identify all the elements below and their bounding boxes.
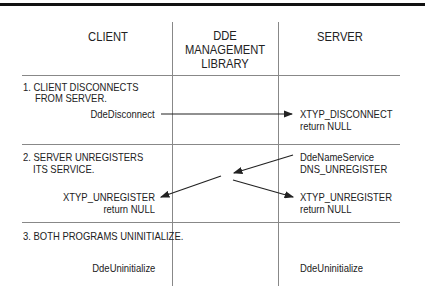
flow-arrows [0, 0, 425, 299]
arrow-nameservice-to-ddeml [234, 155, 293, 173]
arrow-ddeml-to-server [233, 180, 293, 197]
arrow-ddeml-to-client [161, 176, 221, 197]
